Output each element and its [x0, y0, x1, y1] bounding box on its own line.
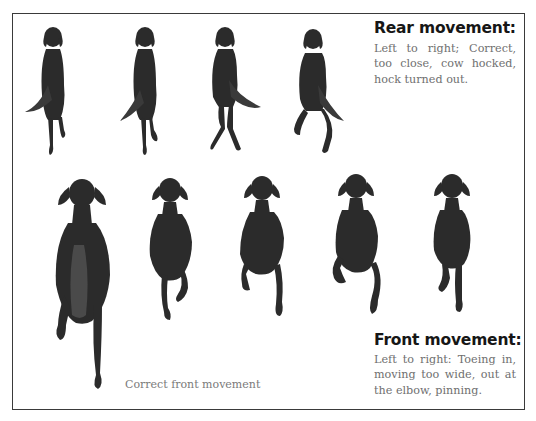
- rear-dog-cow-hocked: [205, 25, 265, 160]
- dog-front-icon: [238, 174, 290, 322]
- rear-dog-correct: [20, 25, 75, 160]
- rear-dog-too-close: [115, 25, 165, 160]
- dog-rear-icon: [205, 25, 265, 160]
- front-dog-toeing-in: [148, 176, 196, 324]
- dog-rear-icon: [115, 25, 165, 160]
- front-movement-title: Front movement:: [374, 331, 521, 349]
- dog-front-icon: [330, 172, 386, 320]
- dog-rear-icon: [20, 25, 75, 160]
- rear-movement-title: Rear movement:: [374, 19, 516, 37]
- front-dog-moving-too-wide: [238, 174, 290, 322]
- rear-dog-hock-turned-out: [290, 27, 350, 162]
- dog-rear-icon: [290, 27, 350, 162]
- front-dog-out-at-elbow: [330, 172, 386, 320]
- dog-front-icon: [428, 172, 474, 320]
- front-dog-correct: [52, 175, 112, 393]
- dog-front-icon: [52, 175, 112, 393]
- front-movement-description: Left to right: Toeing in, moving too wid…: [374, 352, 516, 398]
- rear-movement-description: Left to right; Correct, too close, cow h…: [374, 41, 516, 87]
- front-dog-pinning: [428, 172, 474, 320]
- correct-front-movement-label: Correct front movement: [125, 378, 260, 391]
- dog-front-icon: [148, 176, 196, 324]
